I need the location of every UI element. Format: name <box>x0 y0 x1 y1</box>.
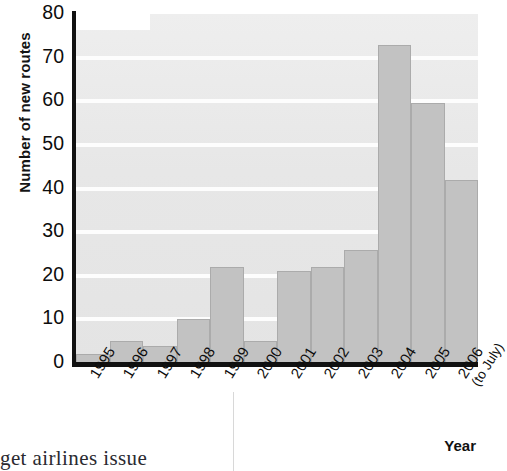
y-tick-label-10: 10 <box>0 306 64 329</box>
scan-artifact-notch <box>76 14 150 30</box>
y-tick-label-60: 60 <box>0 88 64 111</box>
plot-area <box>76 14 478 363</box>
y-tick-label-70: 70 <box>0 45 64 68</box>
y-tick-label-40: 40 <box>0 176 64 199</box>
y-tick-label-0: 0 <box>0 350 64 373</box>
bar-2005 <box>411 103 445 363</box>
x-axis-title: Year <box>444 437 476 454</box>
page-column-edge <box>233 392 234 471</box>
y-axis-tick-labels: 01020304050607080 <box>0 0 70 471</box>
bar-2006 <box>445 180 479 363</box>
bar-2004 <box>378 45 412 363</box>
y-tick-label-80: 80 <box>0 1 64 24</box>
y-tick-label-30: 30 <box>0 219 64 242</box>
y-tick-label-50: 50 <box>0 132 64 155</box>
y-tick-label-20: 20 <box>0 263 64 286</box>
page-text-fragment: get airlines issue <box>0 446 147 471</box>
gridline-70 <box>76 56 478 60</box>
y-axis-line <box>72 11 76 366</box>
